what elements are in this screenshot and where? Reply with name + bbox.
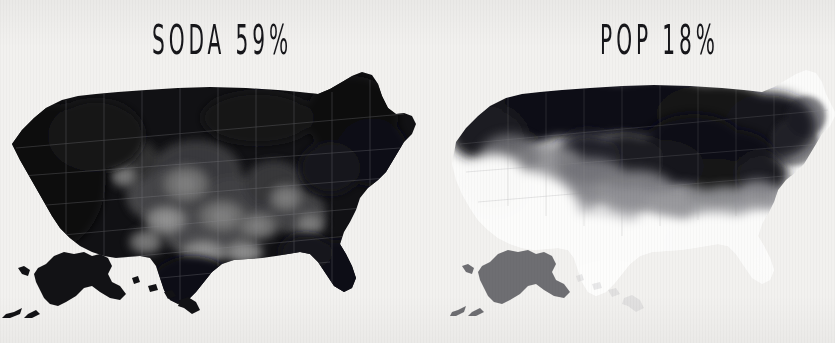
map-pop[interactable]	[450, 56, 835, 326]
map-soda[interactable]	[0, 56, 450, 326]
us-choropleth-pop-svg	[450, 56, 835, 326]
map-title-soda: SODA 59%	[96, 20, 348, 60]
alaska-inset-pop	[450, 250, 570, 316]
alaska-inset-soda	[2, 252, 126, 318]
us-choropleth-soda-svg	[0, 56, 450, 326]
panel-soda: SODA 59%	[0, 0, 450, 343]
map-title-pop: POP 18%	[552, 20, 768, 60]
panel-pop: POP 18%	[450, 0, 835, 343]
